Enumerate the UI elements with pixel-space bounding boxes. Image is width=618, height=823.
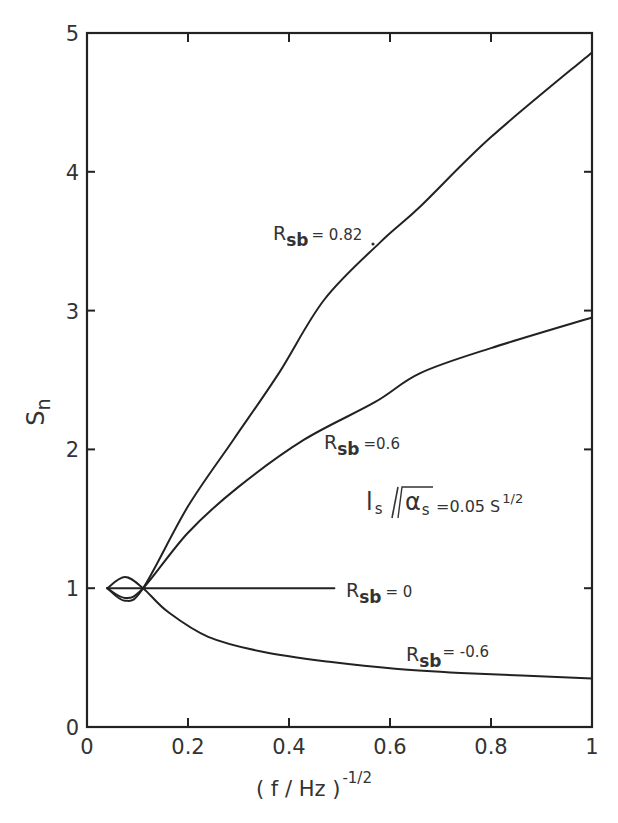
svg-text:Sn: Sn xyxy=(22,398,54,425)
y-axis-label: Sn xyxy=(22,398,54,425)
annotation-exponent: 1/2 xyxy=(502,491,523,506)
annotation-alpha: α xyxy=(405,488,421,516)
curve-series-0 xyxy=(107,52,592,601)
plot-frame xyxy=(87,33,592,727)
y-axis-label-sub: n xyxy=(32,398,54,410)
chart: 00.20.40.60.81012345 Sn ( f / Hz )-1/2 R… xyxy=(0,0,618,823)
label-base: R xyxy=(406,643,419,665)
x-tick-label: 1 xyxy=(585,735,598,759)
x-tick-label: 0 xyxy=(80,735,93,759)
series-label-0.6: Rsb=0.6 xyxy=(324,431,400,459)
label-sub: sb xyxy=(359,587,381,607)
label-base: R xyxy=(273,222,286,244)
axis-tick-labels: 00.20.40.60.81012345 xyxy=(66,22,599,759)
svg-text:αs: αs xyxy=(405,488,430,519)
annotation-value: =0.05 S xyxy=(436,497,500,516)
series-label-neg0.6: Rsb= -0.6 xyxy=(406,643,489,671)
label-base: R xyxy=(324,431,337,453)
y-tick-label: 0 xyxy=(66,716,79,740)
svg-text:=0.05 S1/2: =0.05 S1/2 xyxy=(436,491,523,516)
x-axis-label-base: ( f / Hz ) xyxy=(256,777,340,801)
annotation-alpha-sub: s xyxy=(422,501,430,519)
y-tick-label: 3 xyxy=(66,300,79,324)
x-axis-label-exponent: -1/2 xyxy=(342,769,372,787)
x-tick-label: 0.2 xyxy=(171,735,204,759)
series-label-0: Rsb= 0 xyxy=(346,579,412,607)
svg-text:ls: ls xyxy=(366,488,383,518)
y-tick-label: 5 xyxy=(66,22,79,46)
label-value: =0.6 xyxy=(364,435,400,453)
parameter-annotation: ls αs =0.05 S1/2 xyxy=(366,487,523,519)
label-value: = -0.6 xyxy=(443,643,490,661)
x-tick-label: 0.4 xyxy=(272,735,305,759)
y-axis-label-base: S xyxy=(22,410,50,425)
label-sub: sb xyxy=(286,230,308,250)
label-sub: sb xyxy=(337,439,359,459)
y-tick-label: 1 xyxy=(66,577,79,601)
x-tick-label: 0.6 xyxy=(373,735,406,759)
x-tick-label: 0.8 xyxy=(474,735,507,759)
x-axis-label: ( f / Hz )-1/2 xyxy=(256,769,372,801)
y-tick-label: 4 xyxy=(66,161,79,185)
label-sub: sb xyxy=(419,651,441,671)
stray-dot xyxy=(371,242,374,245)
annotation-slash xyxy=(392,487,398,518)
annotation-l: l xyxy=(366,488,373,516)
y-tick-label: 2 xyxy=(66,438,79,462)
label-base: R xyxy=(346,579,359,601)
axis-ticks xyxy=(87,33,592,727)
annotation-l-sub: s xyxy=(375,500,383,518)
label-value: = 0 xyxy=(386,583,413,601)
label-value: = 0.82 xyxy=(312,226,363,244)
series-label-0.82: Rsb= 0.82 xyxy=(273,222,362,250)
